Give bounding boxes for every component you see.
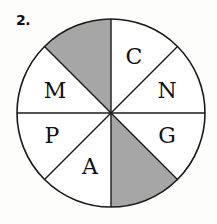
segment-label-c: C (126, 44, 143, 69)
wheel-spokes (17, 19, 205, 207)
letter-wheel: C N G A P M (0, 0, 217, 224)
segment-label-g: G (158, 123, 176, 148)
segment-label-a: A (81, 154, 99, 179)
segment-label-m: M (44, 78, 67, 103)
segment-label-p: P (45, 123, 60, 148)
segment-label-n: N (157, 78, 176, 103)
